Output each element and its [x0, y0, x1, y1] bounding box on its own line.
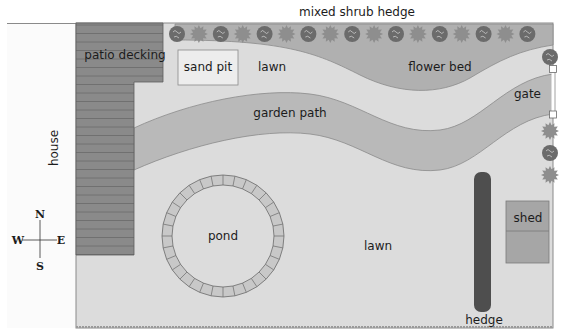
hedge-label: hedge	[465, 313, 503, 327]
shrub-round-icon	[519, 26, 535, 42]
shrub-round-icon	[257, 26, 273, 42]
house[interactable]: house	[7, 23, 76, 328]
lawn-bottom-label: lawn	[364, 239, 392, 253]
shed-label: shed	[514, 211, 543, 225]
compass-west: W	[11, 234, 25, 247]
garden-plan: mixed shrub hedge house flower bed garde…	[0, 0, 570, 334]
compass-north: N	[35, 208, 45, 221]
lawn-top-label: lawn	[258, 60, 286, 74]
patio-label: patio decking	[84, 48, 165, 62]
compass-south: S	[36, 260, 44, 273]
shrub-round-icon	[169, 26, 185, 42]
shrub-round-icon	[344, 26, 360, 42]
house-label: house	[47, 130, 61, 166]
shrub-round-icon	[542, 49, 558, 65]
hedge-title: mixed shrub hedge	[299, 5, 415, 19]
shrub-round-icon	[300, 26, 316, 42]
flower-bed-label: flower bed	[408, 60, 471, 74]
shrub-round-icon	[476, 26, 492, 42]
gate-label: gate	[514, 87, 541, 101]
shrub-round-icon	[213, 26, 229, 42]
pond-label: pond	[208, 229, 238, 243]
garden-path-label: garden path	[253, 106, 326, 120]
shrub-round-icon	[542, 145, 558, 161]
sand-pit-label: sand pit	[184, 60, 233, 74]
shrub-round-icon	[432, 26, 448, 42]
shrub-round-icon	[388, 26, 404, 42]
compass-east: E	[57, 234, 65, 247]
hedge[interactable]	[474, 172, 491, 312]
